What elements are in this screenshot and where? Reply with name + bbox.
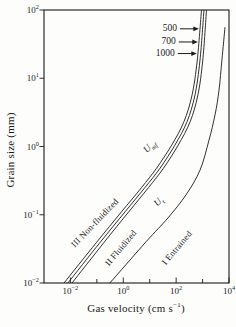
density-label-500: 500 <box>163 24 177 34</box>
density-label-700: 700 <box>162 37 176 47</box>
grain-size-vs-gas-velocity-figure: 102 101 100 10−1 10−2 10−2 100 102 104 G… <box>0 0 236 327</box>
arrow-700-head <box>192 40 198 45</box>
y-tick-label-0: 102 <box>27 6 39 15</box>
arrow-500-head <box>193 26 199 31</box>
x-tick-label-1: 100 <box>117 287 129 296</box>
y-tick-label-1: 101 <box>27 74 39 83</box>
x-axis-title: Gas velocity (cm s−1) <box>87 303 185 314</box>
y-tick-label-3: 10−1 <box>23 210 39 219</box>
y-tick-label-2: 100 <box>27 142 39 151</box>
y-axis-title: Grain size (mm) <box>5 112 16 187</box>
x-tick-label-3: 104 <box>223 287 235 296</box>
y-tick-label-4: 10−2 <box>23 279 39 288</box>
arrow-1000-head <box>191 51 197 56</box>
density-label-1000: 1000 <box>156 49 175 59</box>
x-tick-label-0: 10−2 <box>63 287 79 296</box>
x-tick-label-2: 102 <box>170 287 182 296</box>
